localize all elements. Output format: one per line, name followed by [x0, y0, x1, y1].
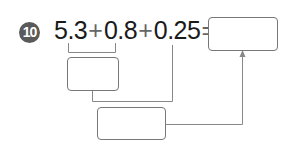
arrow-up-icon	[240, 50, 246, 57]
bracket-first-two-terms	[69, 43, 116, 53]
connector-step2-to-answer	[164, 56, 243, 125]
step-1-box[interactable]	[67, 57, 119, 91]
step-2-box[interactable]	[97, 107, 166, 140]
answer-box[interactable]	[208, 17, 278, 51]
